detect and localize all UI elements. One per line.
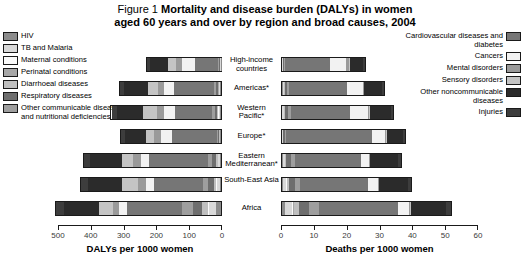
stacked-bar	[146, 57, 222, 72]
axis-tick	[445, 226, 446, 230]
stacked-bar	[55, 201, 222, 216]
axis-tick	[58, 226, 59, 230]
legend-swatch-icon	[3, 80, 18, 89]
bar-row	[58, 177, 222, 192]
bar-row	[58, 57, 222, 72]
bar-segment	[133, 154, 140, 167]
bar-segment	[446, 202, 450, 215]
legend-item: HIV	[3, 31, 136, 41]
bar-segment	[216, 202, 221, 215]
stacked-bar	[120, 129, 222, 144]
bar-segment	[398, 202, 409, 215]
bar-segment	[146, 178, 154, 191]
legend-item-label: Cardiovascular diseases and diabetes	[393, 31, 503, 49]
axis-tick	[281, 226, 282, 230]
bar-segment	[195, 58, 219, 71]
figure-root: Figure 1 Mortality and disease burden (D…	[0, 0, 523, 261]
stacked-bar	[281, 105, 394, 120]
bar-segment	[398, 154, 401, 167]
axis-tick	[189, 226, 190, 230]
axis-tick-label: 400	[84, 231, 97, 240]
bar-segment	[220, 106, 221, 119]
axis-tick	[124, 226, 125, 230]
bar-segment	[220, 130, 221, 143]
legend-item-label: Cancers	[475, 51, 503, 60]
bar-row	[281, 105, 478, 120]
stacked-bar	[119, 81, 222, 96]
dalys-plot	[58, 57, 222, 225]
bar-segment	[220, 82, 221, 95]
bar-row	[281, 201, 478, 216]
bar-segment	[286, 130, 372, 143]
bar-segment	[370, 106, 391, 119]
bar-segment	[295, 154, 361, 167]
legend-swatch-icon	[506, 32, 521, 41]
stacked-bar	[281, 153, 402, 168]
bar-segment	[309, 202, 319, 215]
bar-row	[281, 129, 478, 144]
bar-segment	[330, 58, 346, 71]
axis-tick	[477, 226, 478, 230]
bar-segment	[370, 154, 397, 167]
bar-segment	[161, 130, 172, 143]
bar-segment	[175, 106, 212, 119]
bar-segment	[319, 202, 398, 215]
bar-segment	[387, 130, 403, 143]
bar-segment	[164, 106, 175, 119]
bar-segment	[347, 82, 363, 95]
bar-segment	[285, 58, 330, 71]
axis-tick	[347, 226, 348, 230]
region-label: Europe*	[224, 132, 279, 141]
bar-row	[58, 201, 222, 216]
bar-segment	[411, 202, 447, 215]
legend-swatch-icon	[506, 64, 521, 73]
axis-tick-label: 10	[309, 231, 318, 240]
region-label: Western Pacific*	[224, 104, 279, 121]
bar-segment	[150, 58, 168, 71]
axis-tick-label: 50	[441, 231, 450, 240]
bar-row	[58, 153, 222, 168]
stacked-bar	[281, 81, 385, 96]
bar-segment	[148, 82, 158, 95]
bar-segment	[408, 178, 411, 191]
bar-row	[281, 81, 478, 96]
region-labels: High-income countriesAmericas*Western Pa…	[224, 57, 279, 225]
legend-item: TB and Malaria	[3, 43, 136, 53]
bar-segment	[220, 154, 221, 167]
region-label: Eastern Mediterranean*	[224, 152, 279, 169]
bar-segment	[56, 202, 63, 215]
legend-item-label: Injuries	[479, 107, 503, 116]
bar-segment	[379, 178, 408, 191]
axis-tick	[221, 226, 222, 230]
bar-segment	[372, 130, 385, 143]
bar-segment	[90, 154, 122, 167]
legend-swatch-icon	[3, 32, 18, 41]
axis-tick	[314, 226, 315, 230]
bar-segment	[299, 202, 309, 215]
bar-segment	[119, 202, 127, 215]
axis-tick-label: 30	[375, 231, 384, 240]
legend-swatch-icon	[506, 76, 521, 85]
stacked-bar	[281, 57, 366, 72]
bar-row	[58, 129, 222, 144]
bar-row	[58, 81, 222, 96]
bar-segment	[125, 130, 147, 143]
figure-title-line2: aged 60 years and over by region and bro…	[110, 16, 420, 29]
bar-segment	[99, 202, 113, 215]
bar-segment	[220, 178, 221, 191]
deaths-axis: 0102030405060	[281, 225, 478, 231]
legend-swatch-icon	[506, 88, 521, 97]
bar-segment	[174, 82, 214, 95]
bar-segment	[182, 202, 192, 215]
bar-segment	[368, 178, 378, 191]
bar-segment	[291, 106, 351, 119]
bar-row	[281, 57, 478, 72]
bar-segment	[193, 202, 203, 215]
bar-row	[281, 177, 478, 192]
bar-segment	[141, 154, 149, 167]
bar-segment	[382, 82, 384, 95]
bar-row	[281, 153, 478, 168]
bar-segment	[285, 202, 292, 215]
axis-tick-label: 300	[117, 231, 130, 240]
bar-segment	[138, 178, 146, 191]
